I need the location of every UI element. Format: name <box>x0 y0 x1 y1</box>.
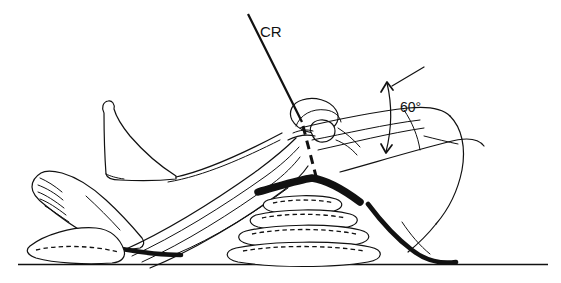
central-ray-label: CR <box>260 23 282 40</box>
angle-label: 60° <box>400 99 421 115</box>
radiographic-positioning-figure: CR 60° <box>0 0 561 283</box>
sponge-support-stack <box>227 196 380 267</box>
knee-joint-patella <box>288 98 360 155</box>
heel-sponge-body <box>27 228 124 264</box>
figure-canvas: CR 60° <box>0 0 561 283</box>
sponge-pad-4 <box>227 242 380 266</box>
heel-sponge-support <box>27 228 124 264</box>
far-leg-background <box>103 101 282 182</box>
